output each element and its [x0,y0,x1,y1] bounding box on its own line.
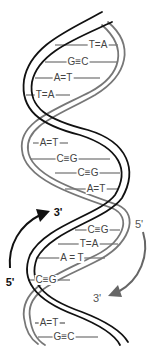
base-pair-label: A=T [86,184,107,194]
right-arrow-end-label: 3' [93,293,101,304]
base-pair-label: T=A [88,40,109,50]
base-pair-label: G≡C [67,57,90,67]
base-pair-label: C≡G [35,275,58,285]
arrowhead-icon [108,285,122,297]
base-pair-label: T=A [35,90,56,100]
base-pair-label: G≡C [53,332,76,342]
dna-double-helix-diagram: T=AG≡CA=TT=AA=TC≡GC≡GA=TC≡GT=AA = TC≡GA=… [0,0,153,351]
base-pair-label: T=A [79,239,100,249]
base-pair-label: A=T [53,73,74,83]
arrowhead-icon [36,209,50,222]
base-pair-label: C≡G [77,168,100,178]
base-pair-label: A=T [39,318,60,328]
gray-strand [22,22,130,345]
base-pair-label: C≡G [56,154,79,164]
base-pair-label: A = T [59,253,84,263]
base-pair-label: C≡G [87,225,110,235]
base-pair-label: A=T [39,138,60,148]
left-arrow-end-label: 3' [54,207,63,218]
right-arrow-start-label: 5' [135,219,143,230]
left-arrow-start-label: 5' [6,277,15,288]
